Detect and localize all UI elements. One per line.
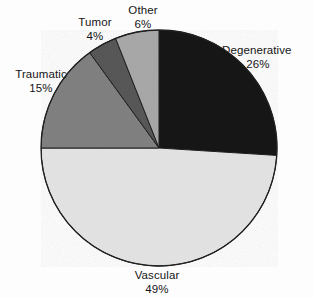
pie-label-traumatic: Traumatic 15% [2, 68, 80, 95]
pie-label-tumor: Tumor 4% [68, 16, 122, 43]
pie-label-other-name: Other [117, 4, 169, 18]
pie-label-traumatic-name: Traumatic [2, 68, 80, 82]
pie-label-degenerative: Degenerative 26% [222, 44, 294, 71]
pie-label-vascular-name: Vascular [109, 269, 205, 283]
pie-label-vascular-value: 49% [109, 283, 205, 297]
pie-label-tumor-value: 4% [68, 30, 122, 44]
pie-label-other-value: 6% [117, 18, 169, 32]
pie-chart: Degenerative 26% Vascular 49% Traumatic … [0, 0, 314, 298]
pie-label-degenerative-value: 26% [222, 58, 294, 72]
pie-label-degenerative-name: Degenerative [222, 44, 294, 58]
pie-label-other: Other 6% [117, 4, 169, 31]
pie-label-vascular: Vascular 49% [109, 269, 205, 296]
pie-slice-vascular [41, 148, 277, 266]
pie-label-traumatic-value: 15% [2, 82, 80, 96]
pie-label-tumor-name: Tumor [68, 16, 122, 30]
